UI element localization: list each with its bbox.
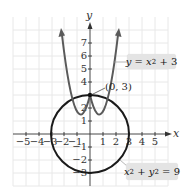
svg-text:7: 7 (81, 37, 87, 48)
svg-text:1: 1 (81, 115, 87, 126)
grid (13, 17, 168, 186)
circle-eq-plus: + (134, 166, 149, 177)
svg-text:2: 2 (113, 136, 119, 147)
svg-text:−2: −2 (72, 154, 87, 165)
parabola-equation-callout: y = x 2 + 3 (127, 54, 176, 69)
x-axis-label: x (173, 127, 180, 140)
circle-eq-rhs: = 9 (159, 166, 180, 177)
svg-text:4: 4 (139, 136, 145, 147)
svg-text:6: 6 (81, 50, 87, 61)
svg-text:5: 5 (81, 63, 87, 74)
y-axis-label: y (85, 9, 93, 22)
svg-text:−1: −1 (72, 141, 87, 152)
parabola-eq-equals: = (131, 56, 146, 67)
svg-text:1: 1 (100, 136, 106, 147)
svg-text:4: 4 (81, 76, 87, 87)
graph-figure: x y −5 −4 −3 −2 −1 1 2 3 4 5 7 6 5 4 2 1… (0, 0, 189, 191)
y-axis-arrow-icon (88, 22, 93, 29)
intersection-label: (0, 3) (105, 81, 132, 92)
circle-equation-callout: x 2 + y 2 = 9 (126, 163, 178, 180)
parabola-eq-rhs: + 3 (156, 56, 177, 67)
svg-text:5: 5 (152, 136, 158, 147)
svg-text:−5: −5 (16, 136, 31, 147)
